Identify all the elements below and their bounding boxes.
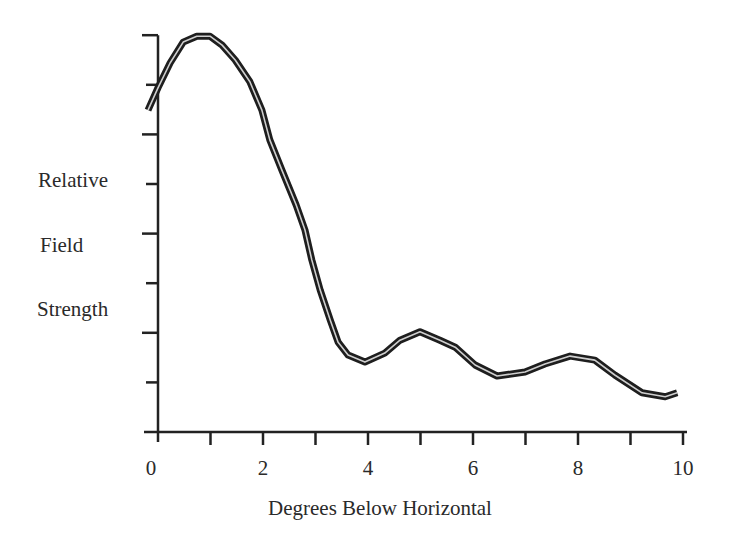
- x-axis-title: Degrees Below Horizontal: [268, 496, 492, 521]
- y-axis-title-line: Strength: [37, 297, 108, 322]
- y-axis-title-line: Field: [40, 233, 83, 258]
- axes: [142, 35, 687, 445]
- x-tick-label: 8: [573, 456, 584, 481]
- x-tick-label: 2: [258, 456, 269, 481]
- x-tick-label: 10: [673, 456, 694, 481]
- curve-outline: [148, 36, 677, 397]
- curve-center: [148, 36, 677, 397]
- y-axis-title-line: Relative: [38, 168, 108, 193]
- field-strength-curve: [148, 36, 677, 397]
- x-tick-label: 0: [146, 456, 157, 481]
- x-tick-label: 4: [363, 456, 374, 481]
- x-tick-label: 6: [468, 456, 479, 481]
